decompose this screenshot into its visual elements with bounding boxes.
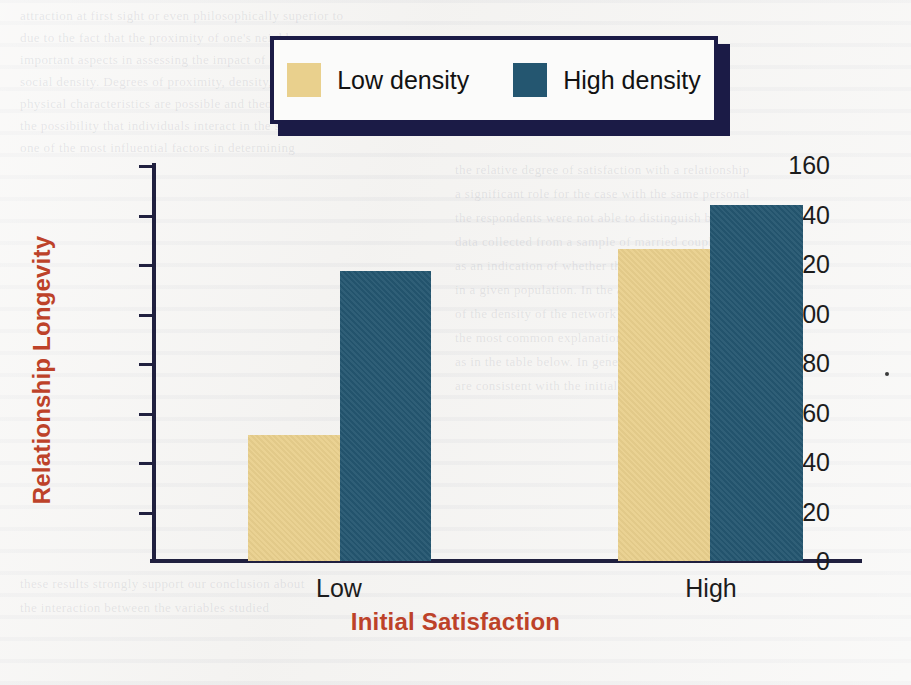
legend-swatch-low-density [287, 63, 321, 97]
stray-ink-dot [885, 372, 889, 376]
y-tick-label-160: 160 [788, 151, 830, 180]
x-tick-label-high: High [685, 574, 736, 603]
legend-item-high-density: High density [513, 63, 701, 97]
legend-label-low-density: Low density [337, 66, 469, 95]
bar-high-density-low-satisfaction[interactable] [340, 271, 431, 561]
legend-item-low-density: Low density [287, 63, 469, 97]
y-tick-60 [139, 413, 152, 416]
bar-high-density-high-satisfaction[interactable] [710, 205, 803, 561]
legend-label-high-density: High density [563, 66, 701, 95]
chart-legend: Low density High density [270, 36, 718, 124]
bar-low-density-low-satisfaction[interactable] [248, 435, 340, 561]
plot-area: 160 140 120 100 80 60 40 20 0 [152, 165, 852, 561]
y-tick-20 [139, 512, 152, 515]
y-tick-120 [139, 264, 152, 267]
y-axis-title: Relationship Longevity [28, 175, 56, 565]
y-tick-140 [139, 215, 152, 218]
y-tick-80 [139, 363, 152, 366]
x-axis-title: Initial Satisfaction [0, 608, 911, 636]
y-tick-label-0: 0 [816, 547, 830, 576]
y-tick-label-20: 20 [802, 497, 830, 526]
y-tick-160 [139, 165, 152, 168]
bar-low-density-high-satisfaction[interactable] [618, 249, 710, 561]
y-tick-label-60: 60 [802, 398, 830, 427]
y-tick-label-40: 40 [802, 448, 830, 477]
y-tick-100 [139, 314, 152, 317]
legend-swatch-high-density [513, 63, 547, 97]
y-tick-40 [139, 462, 152, 465]
x-tick-label-low: Low [316, 574, 362, 603]
y-tick-label-80: 80 [802, 349, 830, 378]
bar-chart: Low density High density 160 140 120 100… [0, 0, 911, 685]
